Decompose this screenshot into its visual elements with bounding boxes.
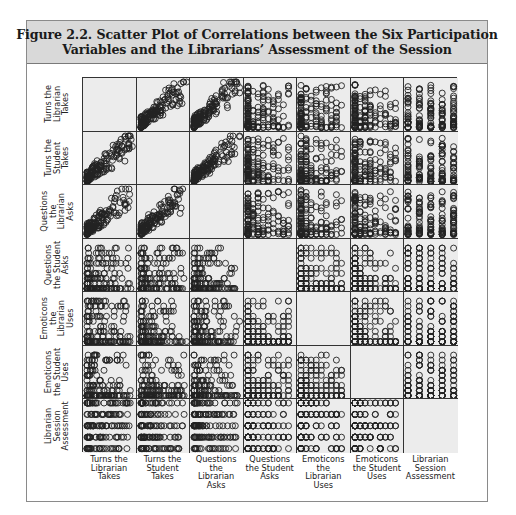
scatter-cell [404, 239, 458, 293]
diagonal-cell [244, 239, 298, 293]
scatter-points [404, 239, 458, 293]
scatter-cell [351, 132, 405, 186]
scatter-cell [83, 239, 137, 293]
scatter-points [351, 78, 405, 132]
scatter-points [351, 185, 405, 239]
scatter-points [351, 292, 405, 346]
row-label-text: Questions the Student Asks [44, 238, 70, 292]
scatter-points [83, 346, 137, 400]
scatter-points [297, 132, 351, 186]
scatter-points [297, 239, 351, 293]
row-label-text: Turns the Student Takes [44, 131, 70, 185]
scatter-cell [190, 292, 244, 346]
scatter-cell [137, 399, 191, 453]
scatter-points [297, 346, 351, 400]
row-label: Emoticons the Librarian Uses [30, 291, 84, 345]
row-label-text: Emoticons the Student Uses [44, 345, 70, 399]
column-label: Questions the Student Asks [243, 455, 297, 481]
scatter-points [244, 78, 298, 132]
scatter-cell [83, 132, 137, 186]
scatter-cell [297, 78, 351, 132]
scatter-cell [297, 132, 351, 186]
scatter-cell [297, 399, 351, 453]
diagonal-cell [297, 292, 351, 346]
scatter-points [297, 399, 351, 453]
diagonal-cell [404, 399, 458, 453]
scatter-points [137, 399, 191, 453]
scatter-cell [244, 399, 298, 453]
scatter-points [190, 399, 244, 453]
scatter-points [137, 78, 191, 132]
scatter-cell [351, 78, 405, 132]
scatter-points [190, 78, 244, 132]
scatter-cell [137, 346, 191, 400]
scatter-cell [244, 346, 298, 400]
scatter-points [137, 292, 191, 346]
scatter-cell [404, 292, 458, 346]
scatter-points [190, 239, 244, 293]
scatter-cell [190, 78, 244, 132]
scatter-points [83, 132, 137, 186]
scatter-points [404, 185, 458, 239]
scatter-cell [137, 78, 191, 132]
scatter-points [244, 346, 298, 400]
scatter-cell [190, 399, 244, 453]
scatter-points [137, 346, 191, 400]
row-label: Questions the Student Asks [30, 238, 84, 292]
column-label: Librarian Session Assessment [403, 455, 457, 481]
scatter-cell [351, 399, 405, 453]
scatter-cell [190, 346, 244, 400]
scatter-cell [244, 78, 298, 132]
scatter-cell [297, 185, 351, 239]
scatter-cell [137, 292, 191, 346]
figure-title-line-2: Variables and the Librarians’ Assessment… [62, 42, 452, 57]
scatter-cell [297, 346, 351, 400]
scatter-points [83, 399, 137, 453]
scatter-points [244, 185, 298, 239]
scatter-points [190, 132, 244, 186]
scatter-cell [83, 346, 137, 400]
scatter-cell [351, 185, 405, 239]
scatter-points [351, 132, 405, 186]
row-label: Emoticons the Student Uses [30, 345, 84, 399]
scatter-points [83, 292, 137, 346]
scatter-cell [404, 78, 458, 132]
scatter-points [404, 346, 458, 400]
row-label-text: Emoticons the Librarian Uses [40, 291, 74, 345]
scatter-cell [244, 292, 298, 346]
diagonal-cell [83, 78, 137, 132]
scatter-points [404, 78, 458, 132]
scatter-points [83, 185, 137, 239]
scatter-cell [404, 346, 458, 400]
scatter-cell [244, 132, 298, 186]
scatter-cell [190, 239, 244, 293]
scatter-cell [137, 239, 191, 293]
row-label: Turns the Librarian Takes [30, 77, 84, 131]
scatter-points [190, 292, 244, 346]
column-label: Emoticons the Librarian Uses [296, 455, 350, 489]
scatter-points [137, 239, 191, 293]
scatter-points [404, 292, 458, 346]
scatter-cell [83, 185, 137, 239]
diagonal-cell [190, 185, 244, 239]
scatter-cell [404, 185, 458, 239]
figure-title-line-1: Figure 2.2. Scatter Plot of Correlations… [16, 27, 498, 42]
scatter-cell [244, 185, 298, 239]
figure-title-bar: Figure 2.2. Scatter Plot of Correlations… [27, 21, 487, 64]
scatter-points [297, 78, 351, 132]
scatter-points [244, 399, 298, 453]
scatter-points [297, 185, 351, 239]
row-label: Librarian Session Assessment [30, 398, 84, 452]
scatter-points [83, 239, 137, 293]
scatter-cell [297, 239, 351, 293]
scatter-cell [190, 132, 244, 186]
scatter-points [190, 346, 244, 400]
row-label: Turns the Student Takes [30, 131, 84, 185]
row-label-text: Librarian Session Assessment [44, 398, 70, 452]
scatter-cell [351, 292, 405, 346]
scatter-cell [137, 185, 191, 239]
scatter-points [404, 132, 458, 186]
scatter-points [244, 132, 298, 186]
column-label: Turns the Librarian Takes [82, 455, 136, 481]
scatter-cell [83, 292, 137, 346]
